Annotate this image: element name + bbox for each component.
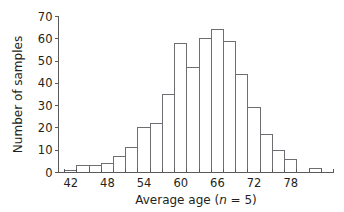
y-tick-label: 60 xyxy=(38,32,53,46)
histogram-chart: 01020304050607042485460667278Average age… xyxy=(0,0,344,212)
histogram-bar xyxy=(150,123,162,172)
histogram-bar xyxy=(248,108,260,173)
x-tick-label: 60 xyxy=(173,176,188,190)
histogram-figure: 01020304050607042485460667278Average age… xyxy=(0,0,344,212)
histogram-bar xyxy=(89,166,101,173)
histogram-bar xyxy=(162,95,174,173)
histogram-bar xyxy=(224,41,236,172)
histogram-bar xyxy=(187,68,199,173)
x-tick-label: 54 xyxy=(137,176,152,190)
histogram-bar xyxy=(236,74,248,172)
y-tick-label: 70 xyxy=(38,10,53,24)
x-tick-label: 42 xyxy=(63,176,78,190)
histogram-bar xyxy=(211,30,223,173)
y-tick-label: 30 xyxy=(38,99,53,113)
y-tick-label: 50 xyxy=(38,54,53,68)
histogram-bar xyxy=(272,150,284,172)
histogram-bar xyxy=(101,164,113,173)
histogram-bar xyxy=(260,135,272,173)
histogram-bar xyxy=(199,39,211,173)
x-tick-label: 78 xyxy=(283,176,298,190)
histogram-bar xyxy=(77,166,89,173)
histogram-bar xyxy=(285,159,297,172)
histogram-bar xyxy=(114,157,126,173)
y-tick-label: 40 xyxy=(38,76,53,90)
y-axis-title: Number of samples xyxy=(11,36,25,153)
y-tick-label: 0 xyxy=(45,166,52,180)
y-tick-label: 10 xyxy=(38,143,53,157)
plot-area: 01020304050607042485460667278Average age… xyxy=(11,10,334,207)
histogram-bar xyxy=(126,148,138,173)
histogram-bar xyxy=(138,128,150,173)
x-tick-label: 72 xyxy=(247,176,262,190)
y-tick-label: 20 xyxy=(38,121,53,135)
x-tick-label: 48 xyxy=(100,176,115,190)
x-tick-label: 66 xyxy=(210,176,225,190)
histogram-bar xyxy=(175,43,187,172)
x-axis-title: Average age (n = 5) xyxy=(135,193,257,207)
histogram-bar xyxy=(309,168,321,172)
